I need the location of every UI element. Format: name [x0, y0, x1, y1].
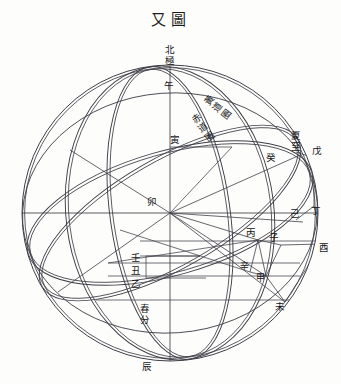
label-yin: 寅 — [170, 135, 180, 145]
label-ding: 丁 — [311, 206, 321, 216]
poly-bing-xin — [250, 240, 258, 272]
frame-you-wei — [285, 244, 322, 302]
label-chunfen: 春分 — [139, 304, 149, 326]
label-ren: 壬 — [131, 253, 141, 263]
label-you: 酉 — [319, 243, 329, 253]
label-wu: 午 — [164, 81, 174, 91]
label-yi: 乙 — [131, 279, 141, 289]
label-zi: 子 — [269, 233, 279, 243]
label-ji: 己 — [290, 209, 300, 219]
label-bing: 丙 — [246, 228, 256, 238]
diag-upper-cross — [170, 147, 232, 213]
chord-to-ji — [170, 213, 303, 222]
label-jia: 甲 — [256, 274, 265, 283]
label-chou: 丑 — [131, 266, 141, 276]
chord-to-xiazhi — [170, 155, 300, 213]
label-north-pole: 北極 — [164, 45, 174, 67]
label-mao: 卯 — [147, 197, 157, 207]
poly-bing-jia — [258, 240, 266, 276]
label-xiazhi: 夏至 — [290, 131, 300, 153]
label-wei: 未 — [275, 302, 285, 312]
label-chen: 辰 — [142, 362, 152, 372]
poly-zi-you — [281, 244, 322, 245]
label-xin: 辛 — [240, 262, 249, 271]
figure-root: 又圖 — [0, 0, 341, 384]
chord-to-bing — [170, 213, 258, 240]
label-gui: 癸 — [266, 153, 276, 163]
label-wu-stem: 戊 — [312, 146, 322, 156]
chord-to-wei — [170, 213, 285, 302]
